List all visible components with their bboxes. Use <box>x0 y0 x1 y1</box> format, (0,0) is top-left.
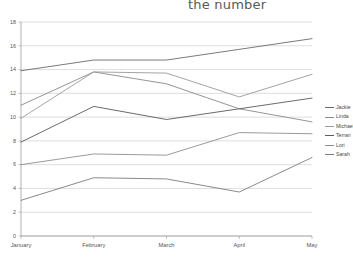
plot-area <box>0 0 353 261</box>
x-tick-label: April <box>212 242 266 248</box>
legend-item[interactable]: Jackie <box>325 103 353 112</box>
legend-item[interactable]: Terran <box>325 131 353 140</box>
x-tick-label: March <box>140 242 194 248</box>
legend-item-label: Jackie <box>336 105 351 110</box>
legend-item[interactable]: Michael <box>325 122 353 131</box>
x-tick-marks <box>21 236 312 239</box>
legend-item[interactable]: Linda <box>325 112 353 121</box>
legend-color-swatch <box>325 117 334 118</box>
y-tick-label: 12 <box>4 90 16 96</box>
legend-item-label: Terran <box>336 133 351 138</box>
legend-color-swatch <box>325 126 334 127</box>
legend-color-swatch <box>325 135 334 136</box>
chart-legend: Jackie Linda Michael Terran Lori Sarah <box>325 103 353 159</box>
legend-color-swatch <box>325 145 334 146</box>
y-tick-label: 14 <box>4 66 16 72</box>
axis-lines <box>21 22 312 236</box>
y-tick-label: 16 <box>4 43 16 49</box>
legend-color-swatch <box>325 154 334 155</box>
x-tick-label: February <box>67 242 121 248</box>
x-tick-label: January <box>0 242 48 248</box>
y-tick-label: 4 <box>4 185 16 191</box>
line-chart: the number 024681012141618 JanuaryFebrua… <box>0 0 353 261</box>
legend-color-swatch <box>325 107 334 108</box>
y-tick-label: 2 <box>4 209 16 215</box>
legend-item-label: Michael <box>336 124 353 129</box>
y-tick-label: 6 <box>4 161 16 167</box>
y-tick-label: 10 <box>4 114 16 120</box>
y-tick-label: 8 <box>4 138 16 144</box>
gridlines <box>19 22 313 236</box>
y-tick-label: 18 <box>4 19 16 25</box>
legend-item[interactable]: Lori <box>325 141 353 150</box>
legend-item-label: Sarah <box>336 152 350 157</box>
y-tick-label: 0 <box>4 233 16 239</box>
series-lines <box>21 39 312 201</box>
x-tick-label: May <box>285 242 339 248</box>
legend-item[interactable]: Sarah <box>325 150 353 159</box>
legend-item-label: Lori <box>336 143 345 148</box>
legend-item-label: Linda <box>336 114 349 119</box>
